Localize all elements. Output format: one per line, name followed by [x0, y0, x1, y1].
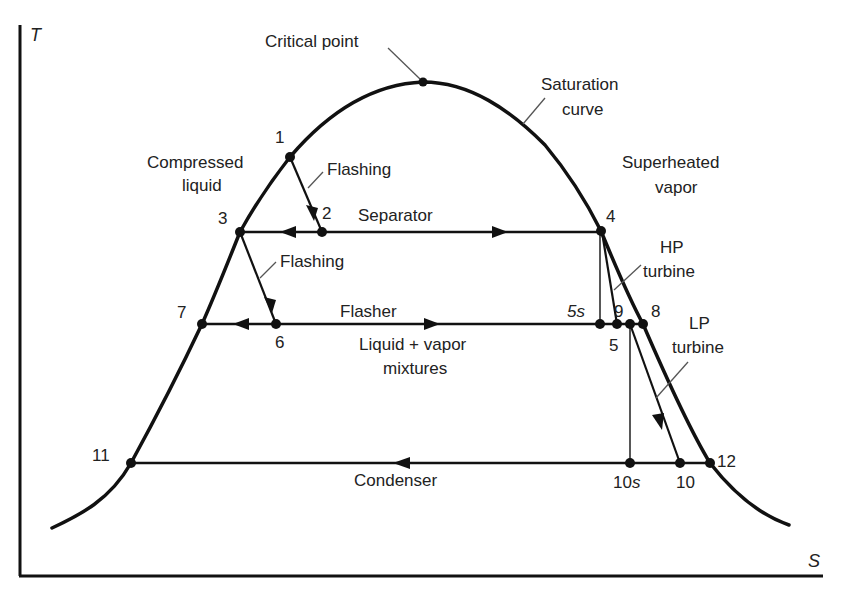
point-5-dot [625, 319, 635, 329]
point-10-label: 10 [676, 473, 695, 492]
mixture-label-2: mixtures [383, 359, 447, 378]
superheated-label-2: vapor [655, 178, 698, 197]
hp-turbine-label-2: turbine [643, 262, 695, 281]
flasher-right-arrow [424, 318, 440, 330]
critical-point-leader [388, 48, 420, 79]
point-10-dot [675, 458, 685, 468]
state-points [126, 78, 715, 469]
point-1-label: 1 [275, 128, 284, 147]
saturation-curve-label-1: Saturation [541, 75, 619, 94]
hp-turbine-label-1: HP [660, 238, 684, 257]
compressed-liquid-label-1: Compressed [147, 153, 243, 172]
y-axis-label: T [30, 25, 43, 45]
point-8-dot [638, 319, 648, 329]
annotations: Critical point Saturation curve Superhea… [147, 32, 724, 490]
lp-turbine-label-1: LP [689, 314, 710, 333]
compressed-liquid-label-2: liquid [182, 176, 222, 195]
point-5-label: 5 [609, 336, 618, 355]
condenser-label: Condenser [354, 471, 438, 490]
point-5s-dot [595, 319, 605, 329]
point-6-dot [271, 319, 281, 329]
point-11-dot [126, 458, 136, 468]
flashing-1-label: Flashing [327, 160, 391, 179]
superheated-label-1: Superheated [622, 153, 719, 172]
point-7-dot [197, 319, 207, 329]
separator-left-arrow [280, 226, 296, 238]
saturation-curve-label-2: curve [562, 100, 604, 119]
point-12-label: 12 [717, 452, 736, 471]
point-1-dot [285, 152, 295, 162]
leader-lines [260, 48, 688, 398]
separator-label: Separator [358, 206, 433, 225]
point-9-label: 9 [614, 302, 623, 321]
point-10s-dot [625, 458, 635, 468]
point-5s-label: 5s [567, 302, 585, 321]
point-4-dot [596, 226, 606, 236]
flasher-left-arrow [233, 318, 249, 330]
point-7-label: 7 [177, 303, 186, 322]
saturation-curve-leader [523, 98, 545, 124]
critical-point-label: Critical point [265, 32, 359, 51]
lp-turbine-label-2: turbine [672, 338, 724, 357]
axes: T S [19, 25, 823, 576]
separator-right-arrow [492, 226, 508, 238]
flashing-1-2 [290, 157, 322, 232]
flashing-2-label: Flashing [280, 252, 344, 271]
lp-turbine-arrowhead [652, 413, 664, 430]
point-10s-label: 10s [613, 473, 641, 492]
point-4-label: 4 [606, 207, 615, 226]
point-8-label: 8 [651, 302, 660, 321]
flashing-lines [240, 157, 322, 324]
critical-point-dot [419, 78, 428, 87]
x-axis-label: S [808, 551, 820, 571]
point-2-dot [317, 227, 327, 237]
flashing-1-leader [308, 172, 323, 188]
point-2-label: 2 [322, 204, 331, 223]
point-6-label: 6 [275, 333, 284, 352]
ts-diagram: T S [0, 0, 841, 595]
condenser-left-arrow [393, 457, 410, 469]
mixture-label-1: Liquid + vapor [359, 335, 467, 354]
point-3-label: 3 [218, 209, 227, 228]
point-11-label: 11 [92, 446, 110, 465]
flashing-2-leader [260, 262, 276, 278]
point-12-dot [705, 458, 715, 468]
flasher-label: Flasher [340, 302, 397, 321]
point-3-dot [235, 227, 245, 237]
